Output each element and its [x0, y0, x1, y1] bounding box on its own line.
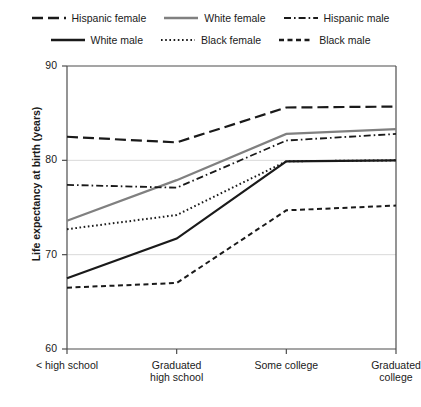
- plot-area: Life expectancy at birth (years) 6070809…: [0, 0, 421, 407]
- plot-svg: [0, 0, 421, 407]
- series-line: [67, 107, 396, 143]
- x-tick-label: Some college: [231, 359, 341, 371]
- series-line: [67, 160, 396, 278]
- y-tick-label: 80: [27, 153, 57, 165]
- y-tick-label: 60: [27, 342, 57, 354]
- x-tick-label: < high school: [12, 359, 122, 371]
- life-expectancy-chart: Hispanic femaleWhite femaleHispanic male…: [0, 0, 421, 407]
- series-line: [67, 206, 396, 288]
- x-tick-label: Graduatedhigh school: [122, 359, 232, 383]
- y-tick-label: 70: [27, 248, 57, 260]
- x-tick-label: Graduatedcollege: [341, 359, 421, 383]
- series-line: [67, 160, 396, 229]
- y-tick-label: 90: [27, 59, 57, 71]
